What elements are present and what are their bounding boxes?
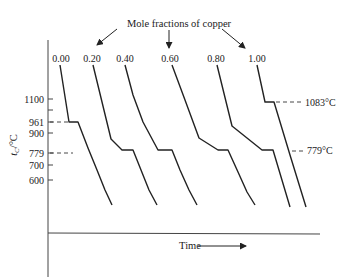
x-axis-label: Time (179, 240, 201, 251)
cooling-curve-diagram: Mole fractions of copper 0.00 0.20 0.40 … (0, 0, 347, 277)
y-axis-label: tC/°C (8, 134, 21, 156)
arrow-to-0.20 (97, 29, 117, 45)
svg-text:tC/°C: tC/°C (8, 134, 21, 156)
y-tick-label: 1100 (24, 94, 44, 105)
arrow-to-1.00 (222, 29, 245, 48)
composition-label: 1.00 (248, 53, 266, 64)
cooling-curves (60, 65, 306, 207)
y-ticks (48, 99, 53, 180)
composition-labels: 0.00 0.20 0.40 0.60 0.80 1.00 (52, 53, 266, 64)
y-tick-label: 600 (29, 175, 44, 186)
y-tick-label: 700 (29, 160, 44, 171)
annotation-1083: 1083°C (305, 97, 336, 108)
x-axis (48, 233, 320, 234)
composition-label: 0.80 (207, 53, 225, 64)
annotation-779: 779°C (307, 145, 333, 156)
curve-1.00 (257, 65, 306, 207)
y-tick-label: 961 (29, 117, 44, 128)
y-tick-label: 779 (29, 148, 44, 159)
y-tick-labels: 1100 961 900 779 700 600 (24, 94, 44, 186)
composition-label: 0.60 (161, 53, 179, 64)
composition-label: 0.00 (52, 53, 70, 64)
composition-label: 0.40 (116, 53, 134, 64)
curve-0.40 (125, 65, 197, 205)
diagram-title: Mole fractions of copper (127, 18, 232, 29)
y-tick-label: 900 (29, 128, 44, 139)
curve-0.00 (60, 65, 112, 205)
composition-label: 0.20 (83, 53, 101, 64)
curve-0.80 (217, 65, 290, 207)
